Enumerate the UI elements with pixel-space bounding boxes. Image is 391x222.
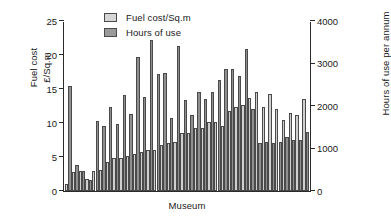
y-axis-left-tick-label: 5: [52, 153, 57, 163]
y-axis-left-tick: [59, 190, 64, 191]
bar-group: [112, 22, 119, 191]
bar-group: [228, 22, 235, 191]
bar-group: [126, 22, 133, 191]
y-axis-left-tick: [59, 156, 64, 157]
y-axis-left-title-line2: £/Sq.m: [41, 13, 52, 123]
y-axis-right-tick: [310, 148, 315, 149]
bar-group: [99, 22, 106, 191]
bar-group: [119, 22, 126, 191]
y-axis-left-tick-label: 25: [46, 17, 57, 27]
y-axis-right-title: Hours of use per annum: [380, 0, 391, 139]
legend-item-fuel-cost: Fuel cost/Sq.m: [104, 10, 191, 25]
bar-group: [167, 22, 174, 191]
bar-group: [187, 22, 194, 191]
y-axis-right-tick-label: 1000: [317, 144, 338, 154]
bar-group: [92, 22, 99, 191]
y-axis-left-tick: [59, 88, 64, 89]
x-axis-title: Museum: [63, 200, 311, 211]
bar-group: [140, 22, 147, 191]
bar-group: [65, 22, 72, 191]
bar-group: [221, 22, 228, 191]
bar-group: [302, 22, 309, 191]
bar-series-container: [65, 22, 309, 191]
bar-group: [268, 22, 275, 191]
y-axis-right-tick: [310, 105, 315, 106]
legend-item-hours-of-use: Hours of use: [104, 25, 191, 40]
bar-group: [133, 22, 140, 191]
bar-group: [173, 22, 180, 191]
bar-group: [160, 22, 167, 191]
bar-group: [207, 22, 214, 191]
y-axis-right-tick: [310, 20, 315, 21]
bar-group: [275, 22, 282, 191]
bar-group: [295, 22, 302, 191]
y-axis-left-tick-label: 20: [46, 51, 57, 61]
bar-group: [241, 22, 248, 191]
y-axis-right-tick-label: 0: [317, 187, 322, 197]
bar-group: [255, 22, 262, 191]
bar-group: [85, 22, 92, 191]
y-axis-left-tick: [59, 54, 64, 55]
bar-group: [194, 22, 201, 191]
y-axis-left-title-line1: Fuel cost: [28, 13, 39, 123]
y-axis-left-tick-label: 15: [46, 85, 57, 95]
bar-group: [289, 22, 296, 191]
legend-swatch-hours-of-use: [104, 28, 117, 37]
bar-group: [180, 22, 187, 191]
y-axis-left-tick: [59, 20, 64, 21]
y-axis-left-tick: [59, 122, 64, 123]
legend-label-hours-of-use: Hours of use: [126, 27, 181, 38]
bar-group: [282, 22, 289, 191]
chart-legend: Fuel cost/Sq.m Hours of use: [104, 10, 191, 40]
bar-group: [79, 22, 86, 191]
bar-group: [262, 22, 269, 191]
y-axis-right-tick: [310, 63, 315, 64]
bar-group: [201, 22, 208, 191]
y-axis-left-tick-label: 0: [52, 187, 57, 197]
y-axis-left-tick-label: 10: [46, 119, 57, 129]
bar-group: [146, 22, 153, 191]
plot-area: 0510152025 01000200030004000: [63, 22, 311, 192]
y-axis-right-tick-label: 2000: [317, 102, 338, 112]
bar-group: [106, 22, 113, 191]
y-axis-right-tick-label: 3000: [317, 59, 338, 69]
bar-group: [72, 22, 79, 191]
y-axis-right-tick: [310, 190, 315, 191]
bar-group: [153, 22, 160, 191]
bar-hours-of-use: [306, 132, 309, 191]
legend-label-fuel-cost: Fuel cost/Sq.m: [126, 12, 191, 23]
bar-group: [214, 22, 221, 191]
bar-group: [248, 22, 255, 191]
bar-group: [234, 22, 241, 191]
y-axis-right-tick-label: 4000: [317, 17, 338, 27]
legend-swatch-fuel-cost: [104, 13, 117, 22]
